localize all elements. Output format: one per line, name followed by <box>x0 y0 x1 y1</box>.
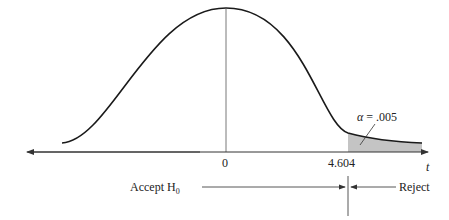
accept-label: Accept H0 <box>130 180 180 196</box>
axis-label-t: t <box>426 160 429 175</box>
reject-label: Reject <box>399 180 430 195</box>
tick-zero: 0 <box>222 156 228 171</box>
alpha-annotation: α = .005 <box>357 110 397 125</box>
tick-critical: 4.604 <box>328 156 355 171</box>
